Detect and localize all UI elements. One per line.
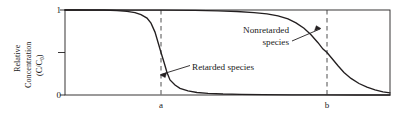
y-axis-label-line3: (C/C₀) xyxy=(35,54,44,76)
y-axis-label-line1: Relative xyxy=(13,44,22,72)
annotation-label-nonretarded-line1: Nonretarded xyxy=(243,25,289,35)
concentration-breakthrough-chart: Relative Concentration (C/C₀) 1 0 a b xyxy=(0,0,408,118)
annotation-label-retarded: Retarded species xyxy=(192,62,254,72)
annotation-label-nonretarded-line2: species xyxy=(262,37,289,47)
x-tick-label-b: b xyxy=(325,100,330,110)
x-tick-label-a: a xyxy=(159,100,163,110)
y-axis-label-line2: Concentration xyxy=(24,42,33,88)
chart-background xyxy=(0,0,408,118)
figure-container: Relative Concentration (C/C₀) 1 0 a b xyxy=(0,0,408,118)
